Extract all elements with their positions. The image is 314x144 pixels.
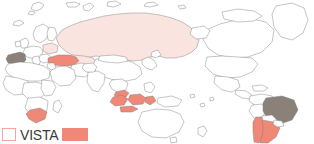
region-belarus-ukraine-tint[interactable] bbox=[43, 43, 58, 54]
region-iceland[interactable] bbox=[13, 20, 24, 26]
region-australia[interactable] bbox=[138, 109, 184, 138]
world-map-figure: VISTA bbox=[0, 0, 314, 144]
region-group-south-america bbox=[249, 94, 298, 143]
map-legend: VISTA bbox=[2, 127, 88, 142]
region-greenland[interactable] bbox=[272, 3, 308, 40]
region-group-north-america bbox=[190, 3, 308, 99]
region-portugal[interactable] bbox=[6, 54, 13, 64]
region-pacific-islands-c[interactable] bbox=[210, 97, 214, 101]
region-ireland[interactable] bbox=[15, 41, 21, 47]
region-mexico[interactable] bbox=[214, 76, 240, 92]
region-severnaya-zemlya[interactable] bbox=[107, 1, 121, 7]
region-java[interactable] bbox=[120, 106, 138, 112]
legend-swatch-filled-icon[interactable] bbox=[62, 128, 88, 141]
region-new-zealand[interactable] bbox=[198, 126, 207, 137]
region-svalbard[interactable] bbox=[31, 2, 44, 11]
region-pacific-islands-a[interactable] bbox=[190, 94, 195, 98]
region-wrangel[interactable] bbox=[178, 5, 186, 9]
region-philippines[interactable] bbox=[144, 82, 155, 93]
region-franz-josef[interactable] bbox=[66, 2, 80, 7]
region-svalbard-minor[interactable] bbox=[28, 11, 35, 15]
region-borneo[interactable] bbox=[128, 94, 146, 105]
legend-label: VISTA bbox=[20, 128, 58, 142]
region-madagascar[interactable] bbox=[53, 100, 62, 113]
region-tasmania[interactable] bbox=[170, 137, 177, 143]
region-scandinavia[interactable] bbox=[33, 24, 49, 43]
region-pacific-islands-b[interactable] bbox=[200, 103, 205, 107]
legend-swatch-empty-icon[interactable] bbox=[2, 128, 16, 141]
region-usa[interactable] bbox=[205, 56, 258, 78]
region-finland[interactable] bbox=[47, 27, 57, 41]
region-caribbean[interactable] bbox=[252, 85, 268, 91]
region-russia[interactable] bbox=[56, 13, 199, 61]
region-canada[interactable] bbox=[203, 19, 274, 58]
region-novaya-zemlya[interactable] bbox=[83, 3, 94, 11]
region-new-siberian-islands[interactable] bbox=[144, 2, 158, 7]
region-sulawesi[interactable] bbox=[145, 96, 156, 105]
world-map-svg[interactable] bbox=[0, 0, 314, 144]
region-new-guinea[interactable] bbox=[157, 96, 182, 107]
region-india[interactable] bbox=[87, 71, 105, 92]
region-korea-japan[interactable] bbox=[142, 57, 157, 70]
